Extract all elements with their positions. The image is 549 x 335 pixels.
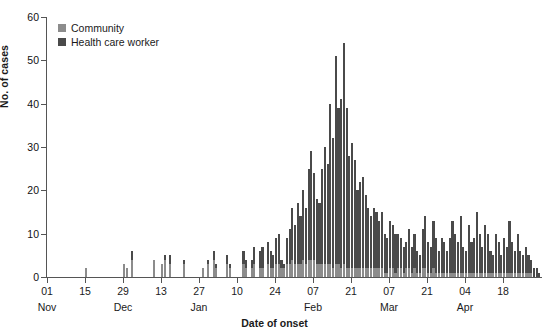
bar-segment-community [207,264,209,277]
bar [229,264,231,277]
x-axis-tick [237,278,238,283]
legend: Community Health care worker [58,22,159,50]
bar-segment-health-care-worker [169,255,171,264]
y-axis-labels: 0102030405060 [0,0,39,290]
x-axis-title: Date of onset [0,317,549,329]
bar-segment-community [153,260,155,277]
bar-segment-health-care-worker [215,264,217,268]
bar-segment-health-care-worker [183,260,185,264]
x-axis-month-label: Jan [179,301,219,313]
bar-segment-health-care-worker [229,264,231,268]
y-axis-tick [41,104,46,105]
x-axis-month-label: Dec [103,301,143,313]
bar-segment-health-care-worker [207,260,209,264]
legend-label-community: Community [71,23,124,34]
x-axis-month-label: Apr [445,301,485,313]
bar-segment-community [261,268,263,277]
bar [245,260,247,277]
x-axis-tick-label: 10 [222,285,252,297]
bar-segment-community [169,264,171,277]
y-axis-tick [41,17,46,18]
x-axis-tick-label: 18 [488,285,518,297]
legend-swatch-community-icon [58,24,66,32]
x-axis-tick-label: 07 [374,285,404,297]
bar-segment-community [164,260,166,277]
y-axis-tick-label: 50 [27,55,39,65]
x-axis-tick-label: 27 [184,285,214,297]
x-axis-tick [47,278,48,283]
bar-segment-health-care-worker [164,255,166,259]
bar [164,255,166,277]
bar [85,268,87,277]
legend-item-community: Community [58,22,159,34]
epidemic-curve-figure: 0102030405060 No. of cases Community Hea… [0,0,549,335]
bar-segment-health-care-worker [213,251,215,260]
y-axis-tick-label: 10 [27,229,39,239]
legend-swatch-hcw-icon [58,38,66,46]
bar [183,260,185,277]
y-axis-tick [41,234,46,235]
legend-label-health-care-worker: Health care worker [71,37,159,48]
x-axis-tick [427,278,428,283]
x-axis-tick [503,278,504,283]
bar-segment-community [215,268,217,277]
x-axis-month-label: Mar [369,301,409,313]
plot-area [47,17,541,277]
bar [126,268,128,277]
bar-segment-community [245,268,247,277]
y-axis-title: No. of cases [0,45,10,108]
bar-segment-community [126,268,128,277]
x-axis-tick [465,278,466,283]
y-axis-tick [41,190,46,191]
bar-segment-health-care-worker [226,255,228,264]
bar [131,251,133,277]
bar-segment-health-care-worker [253,247,255,264]
x-axis-tick-label: 29 [108,285,138,297]
bar-segment-community [229,268,231,277]
y-axis-tick [41,147,46,148]
x-axis-tick-label: 21 [336,285,366,297]
y-axis-tick-label: 40 [27,99,39,109]
bar [261,247,263,277]
x-axis-tick [351,278,352,283]
bar-segment-health-care-worker [538,273,540,277]
x-axis-tick [161,278,162,283]
bar-segment-health-care-worker [245,260,247,269]
bar [538,273,540,277]
bar [202,268,204,277]
x-axis-tick [275,278,276,283]
x-axis-line [46,277,542,278]
y-axis-tick-label: 0 [33,272,39,282]
x-axis-tick [313,278,314,283]
legend-item-health-care-worker: Health care worker [58,36,159,48]
x-axis-month-label: Nov [27,301,67,313]
x-axis-tick [85,278,86,283]
x-axis-month-label: Feb [293,301,333,313]
x-axis-tick-label: 15 [70,285,100,297]
bar-segment-health-care-worker [131,251,133,260]
y-axis-tick-label: 20 [27,185,39,195]
y-axis-tick-label: 30 [27,142,39,152]
x-axis-tick-label: 21 [412,285,442,297]
bar [253,247,255,277]
bar-series-container [47,17,541,277]
bar-segment-community [183,264,185,277]
bar-segment-community [253,264,255,277]
y-axis-tick [41,60,46,61]
y-axis-tick-label: 60 [27,12,39,22]
bar-segment-community [85,268,87,277]
x-axis-tick-label: 07 [298,285,328,297]
x-axis-tick-label: 13 [146,285,176,297]
bar [153,260,155,277]
y-axis-tick [41,277,46,278]
bar [207,260,209,277]
bar-segment-community [202,268,204,277]
x-axis-tick-label: 01 [32,285,62,297]
bar-segment-community [131,260,133,277]
x-axis-tick [389,278,390,283]
bar-segment-health-care-worker [261,247,263,269]
x-axis-tick-label: 24 [260,285,290,297]
x-axis-tick-label: 04 [450,285,480,297]
x-axis-tick [199,278,200,283]
bar [215,264,217,277]
